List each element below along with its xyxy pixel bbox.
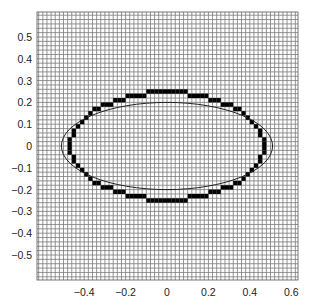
y-tick-label: −0.2: [11, 184, 32, 196]
filled-cell: [150, 89, 154, 93]
filled-cell: [101, 102, 105, 106]
filled-cell: [134, 194, 138, 198]
filled-cell: [121, 190, 125, 194]
filled-cell: [254, 163, 258, 167]
y-tick-label: −0.3: [11, 205, 32, 217]
y-axis-tick-labels: 0.50.40.30.20.10−0.1−0.2−0.3−0.4−0.5: [11, 31, 32, 261]
filled-cell: [138, 94, 142, 98]
filled-cell: [72, 155, 76, 159]
filled-cell: [155, 89, 159, 93]
filled-cell: [175, 89, 179, 93]
y-tick-label: 0.1: [17, 118, 32, 130]
filled-cell: [221, 185, 225, 189]
filled-cell: [262, 146, 266, 150]
filled-cell: [171, 198, 175, 202]
filled-cell: [146, 89, 150, 93]
filled-cell: [134, 94, 138, 98]
filled-cell: [130, 94, 134, 98]
filled-cell: [163, 89, 167, 93]
filled-cell: [258, 133, 262, 137]
filled-cell: [242, 177, 246, 181]
filled-cell: [109, 102, 113, 106]
filled-cell: [167, 89, 171, 93]
filled-cell: [76, 124, 80, 128]
x-tick-label: 0: [164, 286, 170, 298]
y-tick-label: 0.2: [17, 96, 32, 108]
y-tick-label: 0.4: [17, 53, 32, 65]
x-tick-label: −0.4: [74, 286, 95, 298]
y-tick-label: 0: [26, 140, 32, 152]
filled-cell: [68, 146, 72, 150]
y-tick-label: −0.1: [11, 162, 32, 174]
y-tick-label: 0.5: [17, 31, 32, 43]
y-tick-label: −0.4: [11, 227, 32, 239]
filled-cell: [146, 198, 150, 202]
filled-cell: [150, 198, 154, 202]
filled-cell: [188, 94, 192, 98]
filled-cell: [200, 94, 204, 98]
filled-cell: [175, 198, 179, 202]
filled-cell: [130, 194, 134, 198]
x-axis-tick-labels: −0.4−0.200.20.40.6: [74, 286, 299, 298]
filled-cell: [68, 150, 72, 154]
filled-cell: [68, 137, 72, 141]
filled-cell: [92, 181, 96, 185]
filled-cell: [208, 98, 212, 102]
filled-cell: [225, 102, 229, 106]
filled-cell: [88, 111, 92, 115]
filled-cell: [126, 94, 130, 98]
x-tick-label: 0.2: [201, 286, 216, 298]
filled-cell: [101, 185, 105, 189]
x-tick-label: 0.6: [284, 286, 299, 298]
filled-cell: [109, 185, 113, 189]
filled-cell: [237, 107, 241, 111]
filled-cell: [76, 163, 80, 167]
filled-cell: [262, 137, 266, 141]
filled-cell: [254, 124, 258, 128]
filled-cell: [184, 198, 188, 202]
filled-cell: [72, 133, 76, 137]
filled-cell: [97, 107, 101, 111]
filled-cell: [208, 190, 212, 194]
filled-cell: [229, 102, 233, 106]
filled-cell: [171, 89, 175, 93]
filled-cell: [258, 159, 262, 163]
filled-cell: [188, 194, 192, 198]
filled-cell: [88, 177, 92, 181]
filled-cell: [97, 181, 101, 185]
filled-cell: [105, 102, 109, 106]
ellipse-grid-figure: −0.4−0.200.20.40.6 0.50.40.30.20.10−0.1−…: [0, 0, 316, 306]
x-tick-label: −0.2: [115, 286, 136, 298]
filled-cell: [113, 190, 117, 194]
filled-cell: [213, 98, 217, 102]
filled-cell: [163, 198, 167, 202]
filled-cell: [196, 194, 200, 198]
grid-lines: [37, 12, 298, 280]
filled-cell: [184, 89, 188, 93]
filled-cell: [213, 190, 217, 194]
filled-cell: [262, 150, 266, 154]
filled-cell: [117, 190, 121, 194]
filled-cell: [179, 89, 183, 93]
filled-cell: [167, 198, 171, 202]
filled-cell: [72, 159, 76, 163]
filled-cell: [142, 94, 146, 98]
filled-cell: [138, 194, 142, 198]
filled-cell: [68, 142, 72, 146]
filled-cell: [233, 181, 237, 185]
filled-cell: [72, 129, 76, 133]
filled-cell: [159, 89, 163, 93]
filled-cell: [229, 185, 233, 189]
filled-cell: [217, 190, 221, 194]
filled-cell: [200, 194, 204, 198]
filled-cell: [233, 107, 237, 111]
filled-cell: [204, 194, 208, 198]
filled-cell: [262, 142, 266, 146]
y-tick-label: −0.5: [11, 249, 32, 261]
filled-cell: [258, 129, 262, 133]
filled-cell: [126, 194, 130, 198]
filled-cell: [155, 198, 159, 202]
filled-cell: [159, 198, 163, 202]
filled-cell: [92, 107, 96, 111]
filled-cell: [105, 185, 109, 189]
